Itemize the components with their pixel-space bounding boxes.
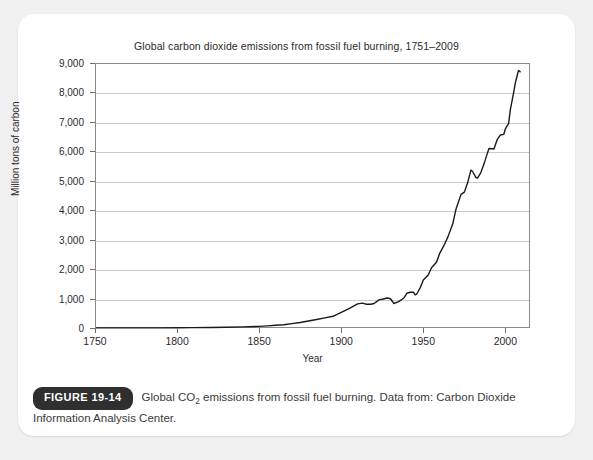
y-axis-title: Million tons of carbon: [10, 102, 21, 197]
y-tick-label: 5,000: [40, 175, 84, 186]
y-tick-label: 9,000: [40, 58, 84, 69]
y-tick-label: 2,000: [40, 264, 84, 275]
x-tick-mark: [341, 328, 342, 333]
x-tick-label: 1850: [247, 335, 270, 347]
x-tick-mark: [177, 328, 178, 333]
x-tick-label: 1800: [165, 335, 188, 347]
y-tick-label: 8,000: [40, 87, 84, 98]
caption-text-part1: Global CO: [142, 391, 196, 403]
chart-container: Global carbon dioxide emissions from fos…: [18, 14, 575, 374]
x-tick-label: 1900: [330, 335, 353, 347]
y-tick-label: 4,000: [40, 205, 84, 216]
figure-number-badge: FIGURE 19-14: [33, 387, 133, 410]
figure-card: Global carbon dioxide emissions from fos…: [18, 14, 575, 436]
x-tick-mark: [259, 328, 260, 333]
x-tick-mark: [423, 328, 424, 333]
y-tick-label: 0: [40, 323, 84, 334]
x-tick-label: 2000: [494, 335, 517, 347]
data-series-plot: [95, 63, 530, 328]
y-tick-label: 7,000: [40, 116, 84, 127]
x-tick-label: 1950: [412, 335, 435, 347]
x-tick-mark: [505, 328, 506, 333]
y-tick-label: 1,000: [40, 293, 84, 304]
series-line-global-co2-emissions: [97, 70, 521, 328]
x-tick-mark: [95, 328, 96, 333]
figure-caption: FIGURE 19-14Global CO2 emissions from fo…: [33, 387, 563, 427]
chart-title: Global carbon dioxide emissions from fos…: [18, 40, 575, 52]
x-tick-label: 1750: [83, 335, 106, 347]
y-tick-label: 6,000: [40, 146, 84, 157]
x-axis-title: Year: [95, 353, 530, 364]
y-tick-label: 3,000: [40, 234, 84, 245]
